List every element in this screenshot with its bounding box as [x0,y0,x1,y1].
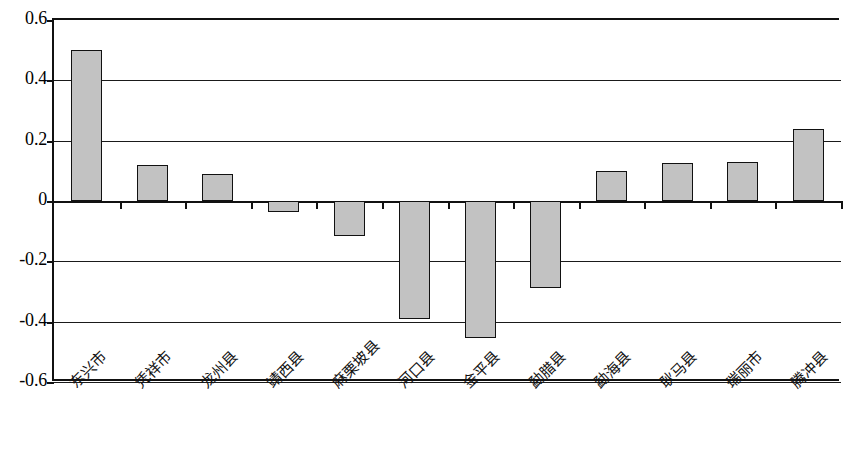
bar [268,201,299,212]
y-tick-mark [47,201,54,203]
bar [399,201,430,319]
bar [137,165,168,201]
x-tick-mark [185,201,187,209]
gridline [54,261,841,262]
y-tick-mark [47,141,54,143]
y-tick-mark [47,261,54,263]
bar [71,50,102,201]
y-tick-label: 0.2 [0,130,47,148]
bar [727,162,758,201]
bar [334,201,365,236]
x-tick-mark [644,201,646,209]
gridline [54,141,841,142]
x-tick-mark [120,201,122,209]
x-tick-mark [382,201,384,209]
gridline [54,80,841,81]
x-tick-mark [316,201,318,209]
y-tick-label: -0.4 [0,311,47,329]
y-tick-mark [47,80,54,82]
y-tick-label: -0.2 [0,250,47,268]
y-tick-mark [47,322,54,324]
x-tick-mark [710,201,712,209]
x-tick-mark [775,201,777,209]
x-tick-mark [513,201,515,209]
gridline [54,322,841,323]
bar [662,163,693,201]
plot-area [52,18,839,380]
y-tick-label: 0.6 [0,9,47,27]
x-tick-mark [448,201,450,209]
bar [465,201,496,338]
x-tick-mark [579,201,581,209]
bar [202,174,233,201]
y-tick-label: 0.4 [0,69,47,87]
bar [530,201,561,288]
x-tick-mark [251,201,253,209]
bar [793,129,824,201]
x-axis-labels: 东兴市凭祥市龙州县靖西县麻栗坡县河口县金平县勐腊县勐海县耿马县瑞丽市腾冲县 [0,380,839,455]
y-tick-mark [47,20,54,22]
bar [596,171,627,201]
y-tick-label: 0 [0,190,47,208]
